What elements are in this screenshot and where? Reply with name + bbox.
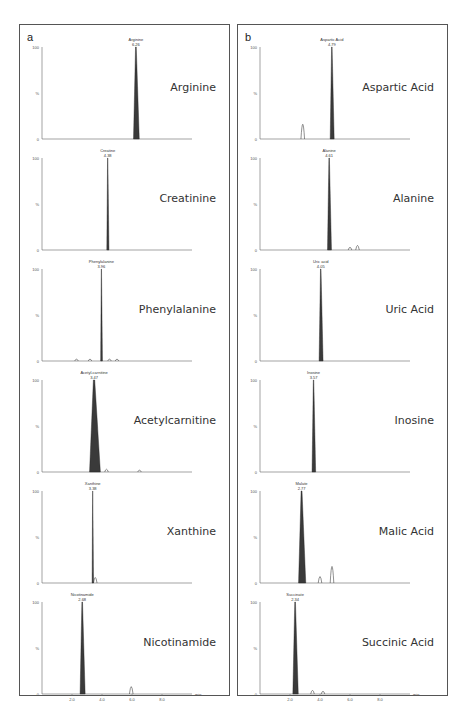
panel-b: b 100%0Aspartic Acid4.79Aspartic Acid100…	[237, 24, 448, 696]
y-tick-100: 100	[250, 156, 257, 161]
y-tick-percent: %	[253, 202, 257, 207]
chromatogram: 100%0Nicotinamide2.68Nicotinamide2.04.06…	[20, 588, 231, 699]
retention-time: 4.38	[104, 153, 113, 158]
y-tick-percent: %	[35, 646, 39, 651]
y-tick-percent: %	[253, 646, 257, 651]
x-tick-label: 2.0	[69, 697, 75, 702]
y-tick-percent: %	[35, 535, 39, 540]
retention-time: 2.68	[78, 597, 87, 602]
compound-name: Inosine	[395, 414, 435, 427]
compound-name: Acetylcarnitine	[134, 414, 217, 427]
compound-name: Creatinine	[159, 192, 216, 205]
retention-time: 3.47	[90, 375, 99, 380]
y-tick-0: 0	[255, 248, 258, 253]
minor-peak	[321, 691, 325, 694]
main-peak	[299, 491, 306, 583]
chromatogram: 100%0Phenylalanine3.96Phenylalanine	[20, 255, 231, 366]
minor-peak	[129, 687, 133, 694]
x-tick-label: 4.0	[317, 697, 323, 702]
y-tick-percent: %	[253, 424, 257, 429]
retention-time: 4.05	[317, 264, 326, 269]
main-peak	[92, 491, 93, 583]
figure-caption	[0, 705, 462, 715]
y-tick-0: 0	[37, 248, 40, 253]
main-peak	[319, 269, 323, 361]
y-tick-100: 100	[250, 267, 257, 272]
main-peak	[330, 47, 334, 139]
y-tick-0: 0	[37, 359, 40, 364]
main-peak	[134, 47, 140, 139]
retention-time: 3.57	[310, 375, 319, 380]
chromatogram: 100%0Acetyl-carnitine3.47Acetylcarnitine	[20, 366, 231, 477]
minor-peak	[348, 247, 352, 250]
x-tick-label: 2.0	[287, 697, 293, 702]
x-tick-label: 6.0	[347, 697, 353, 702]
main-peak	[312, 380, 316, 472]
x-tick-label: 8.0	[377, 697, 383, 702]
main-peak	[80, 602, 85, 694]
main-peak	[328, 158, 332, 250]
y-tick-0: 0	[37, 470, 40, 475]
compound-name: Uric Acid	[385, 303, 434, 316]
compound-name: Arginine	[170, 81, 216, 94]
compound-name: Phenylalanine	[139, 303, 216, 316]
compound-name: Malic Acid	[379, 525, 434, 538]
y-tick-percent: %	[253, 91, 257, 96]
y-tick-percent: %	[35, 202, 39, 207]
y-tick-100: 100	[32, 489, 39, 494]
chromatogram: 100%0Alanine4.61Alanine	[238, 144, 449, 255]
retention-time: 3.38	[89, 486, 98, 491]
chromatogram: 100%0Inosine3.57Inosine	[238, 366, 449, 477]
x-tick-label: 6.0	[129, 697, 135, 702]
retention-time: 4.61	[325, 153, 334, 158]
panel-a: a 100%0Arginine6.26Arginine100%0Creatine…	[19, 24, 230, 696]
chromatogram: 100%0Creatine4.38Creatinine	[20, 144, 231, 255]
main-peak	[107, 158, 109, 250]
y-tick-0: 0	[37, 692, 40, 697]
chromatogram: 100%0Aspartic Acid4.79Aspartic Acid	[238, 33, 449, 144]
minor-peak	[301, 124, 305, 139]
y-tick-100: 100	[32, 378, 39, 383]
main-peak	[293, 602, 298, 694]
y-tick-percent: %	[253, 535, 257, 540]
x-tick-label: 8.0	[159, 697, 165, 702]
main-peak	[101, 269, 103, 361]
retention-time: 3.96	[98, 264, 107, 269]
compound-name: Xanthine	[167, 525, 217, 538]
compound-name: Nicotinamide	[143, 636, 216, 649]
minor-peak	[318, 577, 322, 583]
y-tick-100: 100	[250, 600, 257, 605]
x-unit-label: min	[413, 692, 419, 697]
y-tick-0: 0	[255, 470, 258, 475]
chromatogram: 100%0Xanthine3.38Xanthine	[20, 477, 231, 588]
minor-peak	[105, 469, 109, 472]
y-tick-percent: %	[253, 313, 257, 318]
y-tick-0: 0	[255, 581, 258, 586]
y-tick-percent: %	[35, 91, 39, 96]
y-tick-0: 0	[255, 137, 258, 142]
retention-time: 4.79	[328, 42, 337, 47]
chromatogram: 100%0Arginine6.26Arginine	[20, 33, 231, 144]
compound-name: Alanine	[393, 192, 434, 205]
compound-name: Aspartic Acid	[362, 81, 434, 94]
minor-peak	[330, 566, 334, 583]
y-tick-0: 0	[37, 137, 40, 142]
main-peak	[90, 380, 101, 472]
minor-peak	[311, 690, 315, 694]
y-tick-0: 0	[255, 359, 258, 364]
minor-peak	[93, 577, 97, 583]
y-tick-100: 100	[250, 489, 257, 494]
chromatogram: 100%0Succinate2.34Succinic Acid2.04.06.0…	[238, 588, 449, 699]
y-tick-100: 100	[32, 600, 39, 605]
chromatogram: 100%0Malate2.77Malic Acid	[238, 477, 449, 588]
chromatogram: 100%0Uric acid4.05Uric Acid	[238, 255, 449, 366]
y-tick-100: 100	[32, 45, 39, 50]
x-tick-label: 4.0	[99, 697, 105, 702]
minor-peak	[356, 245, 360, 250]
y-tick-100: 100	[250, 378, 257, 383]
compound-name: Succinic Acid	[362, 636, 434, 649]
y-tick-percent: %	[35, 313, 39, 318]
y-tick-percent: %	[35, 424, 39, 429]
y-tick-0: 0	[37, 581, 40, 586]
retention-time: 6.26	[132, 42, 141, 47]
